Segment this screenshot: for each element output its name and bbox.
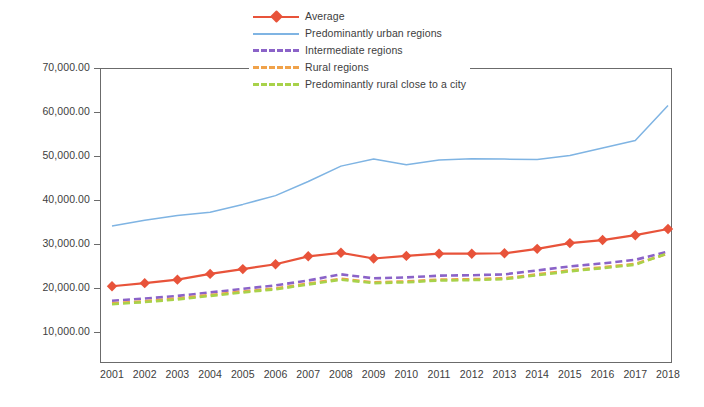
data-point-marker	[140, 278, 150, 288]
data-point-marker	[368, 253, 378, 263]
chart-legend: AveragePredominantly urban regionsInterm…	[249, 6, 470, 96]
legend-label: Predominantly rural close to a city	[305, 79, 466, 90]
data-point-marker	[597, 235, 607, 245]
data-point-marker	[630, 230, 640, 240]
data-point-marker	[303, 251, 313, 261]
data-point-marker	[499, 248, 509, 258]
data-point-marker	[205, 269, 215, 279]
data-point-marker	[238, 264, 248, 274]
data-point-marker	[270, 259, 280, 269]
data-point-marker	[172, 274, 182, 284]
data-point-marker	[336, 248, 346, 258]
line-chart: 70,000.0060,000.0050,000.0040,000.0030,0…	[0, 0, 704, 407]
series-line	[112, 105, 668, 226]
data-point-marker	[565, 238, 575, 248]
legend-label: Rural regions	[305, 62, 369, 73]
data-point-marker	[107, 281, 117, 291]
data-point-marker	[467, 248, 477, 258]
series-predominantly-urban-regions	[112, 105, 668, 226]
legend-label: Average	[305, 11, 345, 22]
data-point-marker	[401, 251, 411, 261]
legend-swatch-icon	[253, 62, 299, 74]
legend-swatch-icon	[253, 79, 299, 91]
data-point-marker	[663, 224, 673, 234]
legend-label: Intermediate regions	[305, 45, 403, 56]
data-point-marker	[434, 248, 444, 258]
legend-item-predominantly-urban-regions[interactable]: Predominantly urban regions	[253, 25, 466, 42]
legend-item-rural-regions[interactable]: Rural regions	[253, 59, 466, 76]
legend-label: Predominantly urban regions	[305, 28, 442, 39]
data-point-marker	[532, 244, 542, 254]
legend-swatch-icon	[253, 11, 299, 23]
legend-swatch-icon	[253, 45, 299, 57]
legend-item-average[interactable]: Average	[253, 8, 466, 25]
legend-swatch-icon	[253, 28, 299, 40]
legend-item-intermediate-regions[interactable]: Intermediate regions	[253, 42, 466, 59]
legend-item-predominantly-rural-close-to-a-city[interactable]: Predominantly rural close to a city	[253, 76, 466, 93]
